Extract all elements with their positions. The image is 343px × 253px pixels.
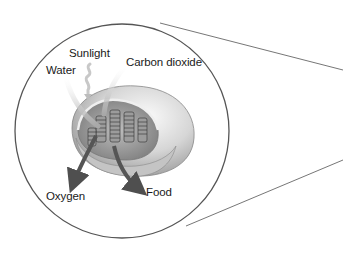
chloroplast-illustration	[72, 86, 194, 177]
diagram-canvas	[0, 0, 343, 253]
label-sunlight: Sunlight	[69, 47, 110, 59]
label-water: Water	[46, 64, 76, 76]
label-carbon-dioxide: Carbon dioxide	[126, 56, 202, 68]
label-oxygen: Oxygen	[46, 190, 85, 202]
label-food: Food	[146, 186, 172, 198]
photosynthesis-diagram: Sunlight Water Carbon dioxide Oxygen Foo…	[0, 0, 343, 253]
